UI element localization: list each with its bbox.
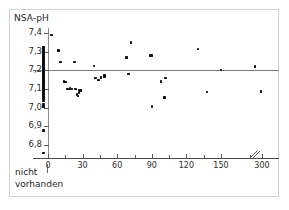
x-tick-label: 0 [37, 161, 59, 170]
data-point [42, 152, 45, 155]
y-tick-label: 7,4 [14, 28, 42, 37]
data-point [164, 77, 167, 80]
data-point [64, 81, 67, 84]
data-point [42, 105, 45, 108]
x-minor-tick-mark [100, 155, 101, 158]
data-point [151, 105, 154, 108]
data-point [254, 65, 257, 68]
data-point [125, 56, 128, 59]
y-tick-mark [44, 70, 49, 71]
y-axis-line [48, 28, 49, 158]
y-tick-label: 7,0 [14, 103, 42, 112]
data-point [42, 129, 45, 132]
data-point [93, 65, 96, 68]
x-tick-label: 90 [141, 161, 163, 170]
data-point [79, 89, 82, 92]
x-tick-label: 150 [210, 161, 232, 170]
y-tick-mark [44, 52, 49, 53]
x-tick-mark [262, 154, 263, 158]
data-point [160, 80, 163, 83]
data-point [103, 76, 106, 79]
data-point [42, 100, 45, 103]
data-point [77, 95, 80, 98]
y-tick-mark [44, 89, 49, 90]
data-point [59, 61, 62, 64]
figure-container: NSA-pH nicht vorhanden 7,47,37,27,17,06,… [0, 0, 289, 210]
data-point [97, 79, 100, 82]
data-point [206, 91, 209, 94]
y-tick-mark [44, 126, 49, 127]
x-tick-label: 120 [175, 161, 197, 170]
data-point [197, 48, 200, 51]
y-tick-label: 6,9 [14, 121, 42, 130]
y-tick-mark [44, 33, 49, 34]
x-minor-tick-mark [135, 155, 136, 158]
data-point [73, 61, 76, 64]
data-point [260, 90, 263, 93]
x-tick-label: 300 [251, 161, 273, 170]
x-minor-tick-mark [250, 155, 251, 158]
x-axis-line [33, 158, 279, 159]
x-tick-mark [221, 154, 222, 158]
data-point [151, 54, 154, 57]
data-point [163, 96, 166, 99]
x-tick-mark [83, 154, 84, 158]
data-point [100, 76, 103, 79]
x-minor-tick-mark [169, 155, 170, 158]
y-tick-label: 6,8 [14, 140, 42, 149]
x-tick-mark [152, 154, 153, 158]
x-tick-mark [186, 154, 187, 158]
data-point [57, 49, 60, 52]
x-tick-label: 60 [106, 161, 128, 170]
scatter-plot: NSA-pH nicht vorhanden 7,47,37,27,17,06,… [0, 0, 289, 210]
y-tick-label: 7,2 [14, 65, 42, 74]
y-tick-mark [44, 145, 49, 146]
y-tick-label: 7,3 [14, 47, 42, 56]
data-point [50, 34, 53, 37]
reference-line-ph-7-2 [33, 70, 279, 71]
x-minor-tick-mark [65, 155, 66, 158]
data-point [74, 88, 77, 91]
y-tick-mark [44, 108, 49, 109]
x-minor-tick-mark [204, 155, 205, 158]
data-point [127, 73, 130, 76]
note-line-2: vorhanden [15, 178, 63, 190]
data-point [94, 77, 97, 80]
x-tick-mark [48, 154, 49, 158]
y-tick-label: 7,1 [14, 84, 42, 93]
x-tick-label: 30 [72, 161, 94, 170]
data-point [71, 88, 74, 91]
y-axis-title: NSA-pH [14, 13, 49, 23]
data-point [130, 41, 133, 44]
x-tick-mark [117, 154, 118, 158]
